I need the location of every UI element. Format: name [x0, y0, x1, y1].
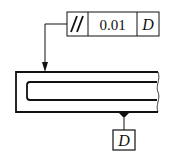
- datum-triangle-icon: [118, 112, 130, 118]
- leader-line: [42, 24, 67, 72]
- datum-label: D: [117, 132, 130, 149]
- datum-reference: D: [141, 16, 154, 33]
- datum-feature-symbol: D: [113, 112, 135, 150]
- tolerance-value: 0.01: [99, 17, 125, 33]
- part-outline: [16, 72, 159, 112]
- feature-control-frame: 0.01 D: [67, 12, 159, 36]
- gdt-drawing: 0.01 D D: [0, 0, 172, 168]
- break-line: [157, 72, 159, 112]
- parallelism-icon: [71, 16, 83, 32]
- arrowhead-icon: [42, 62, 48, 72]
